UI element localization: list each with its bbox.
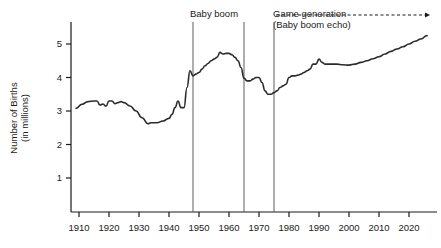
y-tick-label: 2 [48,139,62,150]
y-tick-label: 3 [48,105,62,116]
x-tick-label: 1940 [154,222,184,233]
births-line-chart: Number of Births (in millions) Baby boom… [0,0,441,248]
x-tick-label: 1990 [304,222,334,233]
x-tick-label: 2000 [334,222,364,233]
x-tick-label: 2010 [364,222,394,233]
x-tick-label: 1920 [94,222,124,233]
x-tick-label: 1950 [184,222,214,233]
x-tick-label: 1970 [244,222,274,233]
x-tick-label: 2020 [394,222,424,233]
x-tick-label: 1960 [214,222,244,233]
x-tick-label: 1910 [64,222,94,233]
y-tick-label: 1 [48,172,62,183]
births-data-line [76,36,427,124]
x-tick-label: 1980 [274,222,304,233]
y-tick-label: 5 [48,38,62,49]
y-tick-label: 4 [48,72,62,83]
plot-area [0,0,441,248]
game-generation-arrow-head [425,12,430,17]
x-tick-label: 1930 [124,222,154,233]
